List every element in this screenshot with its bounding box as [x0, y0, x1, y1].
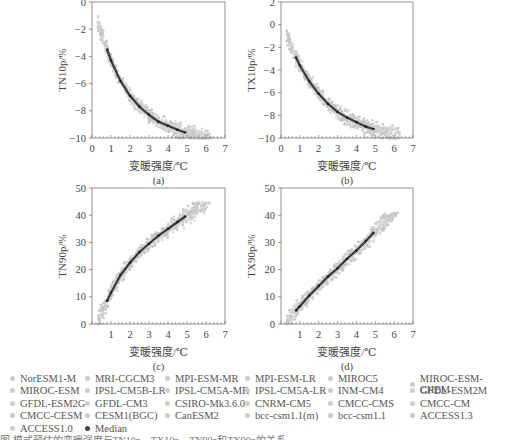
model-marker-icon — [410, 388, 415, 393]
y-tick-label: −4 — [264, 65, 276, 76]
model-marker-icon — [165, 388, 170, 393]
model-marker-icon — [410, 401, 415, 406]
panel-label: (d) — [341, 361, 354, 373]
figure-caption: 图 模式预估的变暖强度与TN10p、TX10p、TN90p和TX90p的关系 — [0, 432, 509, 440]
y-tick-label: 0 — [81, 319, 86, 330]
model-marker-icon — [10, 388, 15, 393]
legend-label: MRI-CGCM3 — [95, 373, 155, 384]
legend-label: IPSL-CM5A-MR — [175, 385, 249, 396]
x-tick-label: 7 — [410, 329, 415, 340]
y-tick-label: −10 — [259, 133, 275, 144]
x-tick-label: 1 — [297, 143, 302, 154]
y-tick-label: 20 — [265, 264, 276, 275]
x-tick-label: 2 — [127, 329, 132, 340]
legend-item: GFDL-ESM2G — [10, 398, 85, 409]
legend-label: GFDL-CM3 — [95, 398, 148, 409]
legend-label: CSIRO-Mk3.6.0 — [175, 398, 245, 409]
y-axis-label: TN90p/% — [56, 234, 68, 277]
legend-item: CMCC-CMS — [328, 398, 394, 409]
x-axis-label: 变暖强度/℃ — [317, 159, 376, 172]
legend-item: bcc-csm1.1(m) — [245, 410, 318, 421]
legend-label: CanESM2 — [175, 410, 219, 421]
model-marker-icon — [245, 376, 250, 381]
legend-label: bcc-csm1.1(m) — [255, 410, 318, 421]
x-tick-label: 0 — [278, 143, 283, 154]
legend-item: MPI-ESM-LR — [245, 373, 316, 384]
x-axis-label: 变暖强度/℃ — [129, 159, 188, 172]
legend-label: MIROC5 — [338, 373, 378, 384]
y-tick-label: −8 — [264, 110, 275, 121]
legend-item: IPSL-CM5A-LR — [245, 385, 326, 396]
x-tick-label: 5 — [373, 329, 378, 340]
median-line — [296, 233, 373, 311]
model-marker-icon — [10, 413, 15, 418]
model-marker-icon — [328, 401, 333, 406]
legend-item: CESM1(BGC) — [85, 410, 157, 421]
chart-panel-b: 01234567−10−8−6−4−202变暖强度/℃(b)TX10p/% — [245, 0, 416, 187]
legend-item: IPSL-CM5A-MR — [165, 385, 249, 396]
legend-label: IPSL-CM5A-LR — [255, 385, 326, 396]
x-tick-label: 3 — [335, 143, 340, 154]
x-tick-label: 7 — [222, 329, 227, 340]
x-tick-label: 7 — [410, 143, 415, 154]
legend-item: NorESM1-M — [10, 373, 76, 384]
x-tick-label: 7 — [222, 143, 227, 154]
legend-label: GFDL-ESM2G — [20, 398, 85, 409]
legend-label: CESM1(BGC) — [95, 410, 157, 421]
model-marker-icon — [85, 401, 90, 406]
x-tick-label: 4 — [354, 143, 360, 154]
y-tick-label: 50 — [265, 183, 276, 194]
model-marker-icon — [328, 388, 333, 393]
chart-panel-d: 123456701020304050变暖强度/℃(d)TX90p/% — [245, 183, 416, 374]
legend-item: GFDL-CM3 — [85, 398, 148, 409]
y-tick-label: −2 — [75, 24, 86, 35]
legend-label: IPSL-CM5B-LR — [95, 385, 166, 396]
y-tick-label: −2 — [264, 42, 275, 53]
panel-label: (b) — [341, 175, 354, 187]
x-tick-label: 2 — [316, 143, 321, 154]
x-tick-label: 6 — [203, 143, 208, 154]
x-tick-label: 5 — [184, 143, 189, 154]
chart-panel-a: 01234567−10−8−6−4−20变暖强度/℃(a)TN10p/% — [56, 0, 228, 187]
legend-item: CanESM2 — [165, 410, 219, 421]
x-tick-label: 2 — [316, 329, 321, 340]
model-marker-icon — [245, 388, 250, 393]
legend-item: bcc-csm1.1 — [328, 410, 386, 421]
y-tick-label: −6 — [75, 78, 86, 89]
x-tick-label: 0 — [89, 143, 94, 154]
x-tick-label: 5 — [184, 329, 189, 340]
legend-label: NorESM1-M — [20, 373, 76, 384]
legend-item: INM-CM4 — [328, 385, 384, 396]
x-tick-label: 4 — [354, 329, 360, 340]
x-tick-label: 4 — [165, 143, 171, 154]
legend-item: MPI-ESM-MR — [165, 373, 239, 384]
x-tick-label: 1 — [108, 329, 113, 340]
y-axis-label: TX10p/% — [245, 48, 257, 91]
model-marker-icon — [328, 413, 333, 418]
legend-label: CMCC-CMS — [338, 398, 394, 409]
panel-label: (a) — [153, 175, 165, 187]
x-tick-label: 3 — [146, 143, 151, 154]
y-tick-label: −10 — [70, 133, 86, 144]
legend-item: MIROC5 — [328, 373, 378, 384]
y-tick-label: 30 — [265, 237, 276, 248]
x-tick-label: 4 — [165, 329, 171, 340]
y-tick-label: 10 — [265, 291, 276, 302]
x-tick-label: 1 — [297, 329, 302, 340]
y-tick-label: 30 — [76, 237, 87, 248]
x-axis-label: 变暖强度/℃ — [317, 345, 376, 358]
legend-item: CMCC-CESM — [10, 410, 82, 421]
x-tick-label: 6 — [392, 329, 397, 340]
y-axis-label: TN10p/% — [56, 48, 68, 91]
legend-item: MIROC-ESM — [10, 385, 80, 396]
median-line — [107, 50, 185, 133]
y-tick-label: 40 — [76, 210, 87, 221]
model-marker-icon — [10, 401, 15, 406]
legend-label: INM-CM4 — [338, 385, 384, 396]
x-tick-label: 6 — [203, 329, 208, 340]
legend-label: CMCC-CESM — [20, 410, 82, 421]
y-axis-label: TX90p/% — [245, 234, 257, 277]
model-marker-icon — [10, 426, 15, 431]
x-tick-label: 1 — [108, 143, 113, 154]
x-tick-label: 3 — [146, 329, 151, 340]
